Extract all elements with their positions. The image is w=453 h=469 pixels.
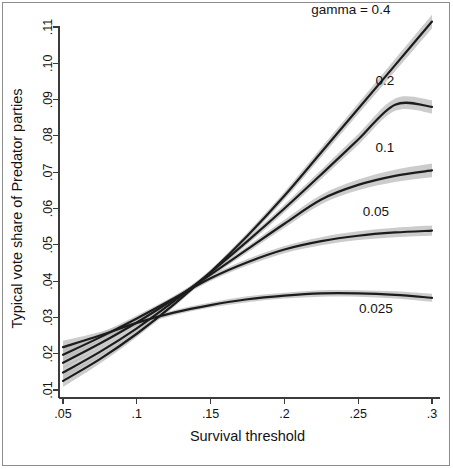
y-axis-tick-label: .07 <box>41 163 55 180</box>
series-line <box>63 170 432 362</box>
x-axis-tick-label: .05 <box>54 407 71 421</box>
y-axis-tick-label: .09 <box>41 91 55 108</box>
x-axis-tick-label: .25 <box>350 407 367 421</box>
series-annotation-label: 0.05 <box>363 204 389 219</box>
y-axis-tick-labels: .01.02.03.04.05.06.07.08.09.10.11 <box>41 19 55 399</box>
x-axis-tick-label: .1 <box>132 407 142 421</box>
figure-container: .01.02.03.04.05.06.07.08.09.10.11 .05.1.… <box>0 0 453 469</box>
y-axis-tick-label: .04 <box>41 272 55 289</box>
confidence-band-group <box>63 15 432 387</box>
x-axis-tick-label: .3 <box>427 407 437 421</box>
chart-canvas: .01.02.03.04.05.06.07.08.09.10.11 .05.1.… <box>0 0 453 469</box>
x-axis-tick-label: .15 <box>202 407 219 421</box>
x-axis-tick-label: .2 <box>279 407 289 421</box>
series-annotation-group: gamma = 0.40.20.10.050.025 <box>311 2 394 316</box>
x-axis-title: Survival threshold <box>190 428 305 444</box>
series-annotation-label: 0.2 <box>375 73 394 88</box>
y-axis-tick-label: .02 <box>41 345 55 362</box>
y-axis-tick-label: .03 <box>41 309 55 326</box>
x-axis-tick-group <box>63 398 432 404</box>
series-annotation-label: 0.1 <box>375 140 394 155</box>
y-axis-tick-label: .06 <box>41 200 55 217</box>
y-axis-title: Typical vote share of Predator parties <box>9 88 25 328</box>
y-axis-tick-label: .08 <box>41 127 55 144</box>
y-axis-tick-label: .11 <box>41 19 55 35</box>
x-axis-tick-labels: .05.1.15.2.25.3 <box>54 407 437 421</box>
y-axis-tick-label: .10 <box>41 55 55 72</box>
y-axis-tick-label: .01 <box>41 381 55 398</box>
series-annotation-label: gamma = 0.4 <box>311 2 391 17</box>
series-annotation-label: 0.025 <box>359 301 393 316</box>
y-axis-tick-label: .05 <box>41 236 55 253</box>
